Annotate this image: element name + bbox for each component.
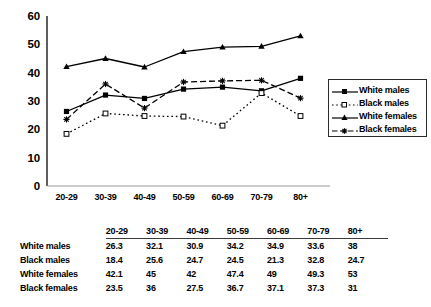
table-cell: 33.6 (307, 239, 347, 254)
data-point-marker (220, 123, 225, 128)
table-body: White males26.332.130.934.234.933.638Bla… (20, 239, 388, 296)
table-column-header: 50-59 (227, 224, 267, 239)
table-column-header: 40-49 (186, 224, 226, 239)
table-header: 20-2930-3940-4950-5960-6970-7980+ (20, 224, 388, 239)
table-column-header: 70-79 (307, 224, 347, 239)
y-tick-label: 50 (16, 38, 40, 50)
chart-legend: White males Black males (328, 79, 427, 137)
table-row: Black females23.53627.536.737.137.331 (20, 281, 388, 295)
y-tick-label: 20 (16, 123, 40, 135)
table-column-header: 30-39 (146, 224, 186, 239)
data-point-marker (102, 81, 108, 87)
data-point-marker (102, 55, 108, 61)
legend-label-white-males: White males (359, 85, 409, 95)
legend-item-white-females: White females (331, 109, 426, 122)
table-cell: 34.9 (267, 239, 307, 254)
table-cell: 24.5 (227, 253, 267, 267)
table-cell: 42 (186, 267, 226, 281)
table-column-header: 80+ (348, 224, 388, 239)
table-cell: 31 (348, 281, 388, 295)
table-cell: 37.1 (267, 281, 307, 295)
legend-marker-black-males (331, 97, 359, 109)
table-cell: 38 (348, 239, 388, 254)
legend-marker-black-females (331, 123, 359, 135)
table-cell: 32.8 (307, 253, 347, 267)
values-table: 20-2930-3940-4950-5960-6970-7980+ White … (20, 224, 388, 295)
data-point-marker (297, 33, 303, 39)
data-point-marker (180, 79, 186, 85)
series-line (67, 80, 301, 119)
table-cell: 30.9 (186, 239, 226, 254)
data-point-marker (297, 95, 303, 101)
legend-marker-white-females (331, 110, 359, 122)
legend-marker-white-males (331, 84, 359, 96)
table-cell: 49 (267, 267, 307, 281)
series-layer (63, 33, 303, 137)
series-line (67, 93, 301, 134)
data-point-marker (64, 131, 69, 136)
table-cell: 18.4 (106, 253, 146, 267)
data-point-marker (298, 76, 303, 81)
data-point-marker (142, 114, 147, 119)
table-column-header: 60-69 (267, 224, 307, 239)
table-cell: 25.6 (146, 253, 186, 267)
table-row-label: White females (20, 267, 106, 281)
data-point-marker (259, 91, 264, 96)
data-point-marker (219, 78, 225, 84)
table-cell: 24.7 (186, 253, 226, 267)
data-point-marker (103, 111, 108, 116)
data-point-marker (63, 116, 69, 122)
table-cell: 32.1 (146, 239, 186, 254)
legend-label-black-females: Black females (359, 124, 416, 134)
table-cell: 23.5 (106, 281, 146, 295)
table-corner-cell (20, 224, 106, 239)
data-point-marker (142, 96, 147, 101)
table-cell: 24.7 (348, 253, 388, 267)
table-cell: 53 (348, 267, 388, 281)
table-cell: 27.5 (186, 281, 226, 295)
table-row-label: Black males (20, 253, 106, 267)
series-white-females (63, 33, 303, 70)
data-point-marker (181, 114, 186, 119)
y-tick-label: 0 (16, 180, 40, 192)
table-row: White females42.1454247.44949.353 (20, 267, 388, 281)
legend-item-black-males: Black males (331, 96, 426, 109)
table-cell: 36 (146, 281, 186, 295)
data-point-marker (103, 92, 108, 97)
table-cell: 42.1 (106, 267, 146, 281)
y-tick-label: 10 (16, 152, 40, 164)
table-cell: 37.3 (307, 281, 347, 295)
table-cell: 34.2 (227, 239, 267, 254)
data-point-marker (220, 85, 225, 90)
table-cell: 36.7 (227, 281, 267, 295)
data-point-marker (298, 114, 303, 119)
legend-item-white-males: White males (331, 83, 426, 96)
data-point-marker (258, 77, 264, 83)
table-cell: 49.3 (307, 267, 347, 281)
y-tick-label: 60 (16, 10, 40, 22)
table-header-row: 20-2930-3940-4950-5960-6970-7980+ (20, 224, 388, 239)
table-cell: 47.4 (227, 267, 267, 281)
table-cell: 45 (146, 267, 186, 281)
table-column-header: 20-29 (106, 224, 146, 239)
data-point-marker (64, 109, 69, 114)
x-tick-label: 80+ (278, 192, 324, 202)
data-table: 20-2930-3940-4950-5960-6970-7980+ White … (0, 216, 431, 307)
line-chart: 0102030405060 20-2930-3940-4950-5960-697… (0, 0, 431, 212)
table-row: White males26.332.130.934.234.933.638 (20, 239, 388, 254)
y-tick-label: 30 (16, 95, 40, 107)
table-row-label: White males (20, 239, 106, 254)
data-point-marker (141, 105, 147, 111)
table-cell: 26.3 (106, 239, 146, 254)
table-row: Black males18.425.624.724.521.332.824.7 (20, 253, 388, 267)
legend-item-black-females: Black females (331, 122, 426, 135)
table-row-label: Black females (20, 281, 106, 295)
data-point-marker (181, 87, 186, 92)
y-tick-label: 40 (16, 67, 40, 79)
legend-label-white-females: White females (359, 111, 417, 121)
table-cell: 21.3 (267, 253, 307, 267)
legend-label-black-males: Black males (359, 98, 409, 108)
figure: 0102030405060 20-2930-3940-4950-5960-697… (0, 0, 431, 307)
